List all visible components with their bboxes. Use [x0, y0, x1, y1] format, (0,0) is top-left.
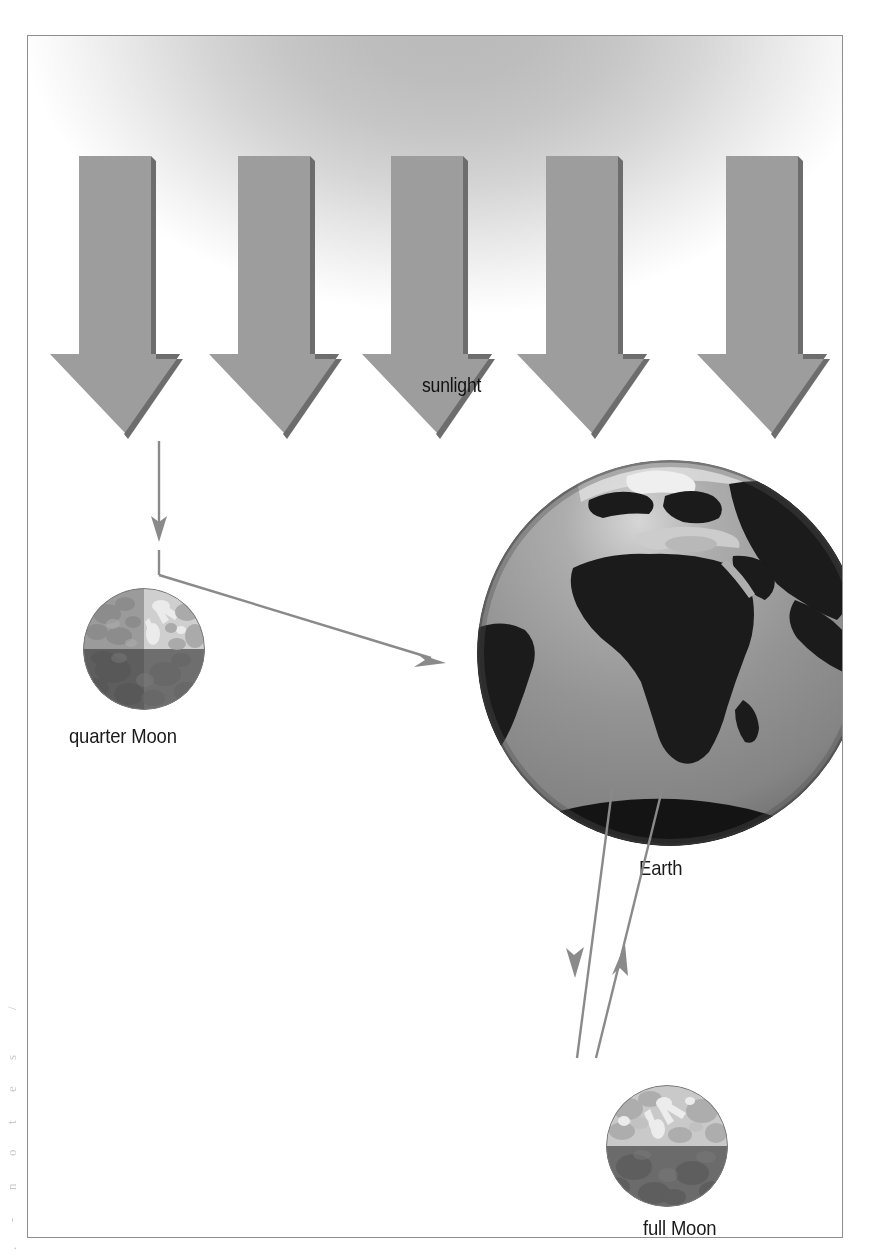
sunlight-ray-1	[50, 156, 190, 446]
full-moon-label: full Moon	[643, 1216, 716, 1238]
sunlight-ray-4	[517, 156, 657, 446]
figure-frame: sunlight	[27, 35, 843, 1238]
sunlight-ray-2	[209, 156, 349, 446]
full-moon-image	[606, 1085, 728, 1207]
page-edge-marks: / s e t o n - .	[0, 0, 26, 1257]
edge-mark-5: n	[4, 1184, 20, 1191]
edge-mark-7: .	[4, 1247, 20, 1250]
sunlight-label: sunlight	[422, 374, 481, 397]
quarter-moon-image	[83, 588, 205, 710]
quarter-moon-label: quarter Moon	[69, 724, 177, 748]
edge-mark-4: o	[4, 1150, 20, 1157]
sunlight-ray-5	[697, 156, 837, 446]
edge-mark-2: e	[4, 1086, 20, 1092]
earth-image	[477, 460, 843, 846]
figure-page: / s e t o n - .	[0, 0, 871, 1257]
edge-mark-3: t	[4, 1120, 20, 1124]
sunray-to-quarter-moon-arrow	[151, 441, 167, 542]
earth-label: Earth	[639, 856, 682, 880]
edge-mark-0: /	[4, 1006, 20, 1010]
edge-mark-6: -	[4, 1218, 20, 1222]
sunlight-ray-3	[362, 156, 502, 446]
edge-mark-1: s	[4, 1055, 20, 1060]
